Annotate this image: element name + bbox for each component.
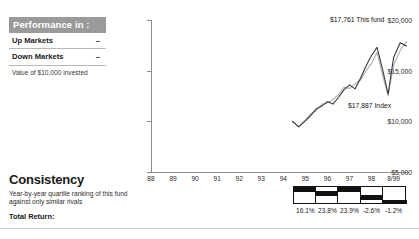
- quartile-box: [315, 186, 339, 204]
- quartile-return-value: 23.9%: [337, 207, 361, 215]
- quartile-cell: 23.9%: [337, 186, 361, 215]
- x-axis-label: 8/99: [387, 175, 400, 183]
- x-axis-label: 91: [213, 175, 220, 183]
- performance-row-value: –: [96, 52, 102, 61]
- x-axis-label: 97: [346, 175, 353, 183]
- x-axis-label: 93: [258, 175, 265, 183]
- performance-box: Performance in : Up Markets – Down Marke…: [9, 17, 106, 77]
- x-axis-label: 96: [324, 175, 331, 183]
- annotation-index: $17,887 Index: [348, 102, 391, 109]
- quartile-box: [382, 186, 406, 204]
- consistency-title: Consistency: [9, 173, 144, 187]
- quartile-return-value: -1.2%: [382, 207, 406, 215]
- performance-row-down-markets: Down Markets –: [9, 49, 106, 66]
- quartile-return-value: -2.6%: [360, 207, 384, 215]
- performance-row-up-markets: Up Markets –: [9, 33, 106, 50]
- performance-row-label: Up Markets: [12, 36, 53, 45]
- bottom-divider: [0, 228, 419, 229]
- performance-box-note: Value of $10,000 invested: [9, 66, 106, 77]
- annotation-this-fund: $17,761 This fund: [330, 16, 384, 23]
- x-axis-label: 94: [280, 175, 287, 183]
- x-axis-label: 92: [236, 175, 243, 183]
- chart-lines: [151, 20, 413, 172]
- quartile-box: [293, 186, 317, 204]
- growth-chart: $5,000$10,000$15,000$20,000 888990919293…: [112, 14, 412, 174]
- quartile-cell: 16.1%: [293, 186, 317, 215]
- x-axis-label: 95: [302, 175, 309, 183]
- x-axis-label: 98: [368, 175, 375, 183]
- quartile-box: [360, 186, 384, 204]
- x-axis-line: [151, 172, 409, 173]
- quartile-cell: -2.6%: [360, 186, 384, 215]
- chart-series-line: [292, 43, 407, 127]
- performance-row-value: –: [96, 36, 102, 45]
- quartile-ranking-row: 16.1%23.8%23.9%-2.6%-1.2%: [112, 186, 412, 224]
- x-axis-label: 89: [169, 175, 176, 183]
- quartile-cell: 23.8%: [315, 186, 339, 215]
- x-axis-label: 90: [191, 175, 198, 183]
- quartile-band: [383, 200, 407, 205]
- quartile-cell: -1.2%: [382, 186, 406, 215]
- x-axis-label: 88: [147, 175, 154, 183]
- quartile-box: [337, 186, 361, 204]
- y-axis-tick: [147, 172, 151, 173]
- performance-box-header: Performance in :: [9, 17, 106, 33]
- quartile-return-value: 16.1%: [293, 207, 317, 215]
- quartile-return-value: 23.8%: [315, 207, 339, 215]
- performance-row-label: Down Markets: [12, 52, 63, 61]
